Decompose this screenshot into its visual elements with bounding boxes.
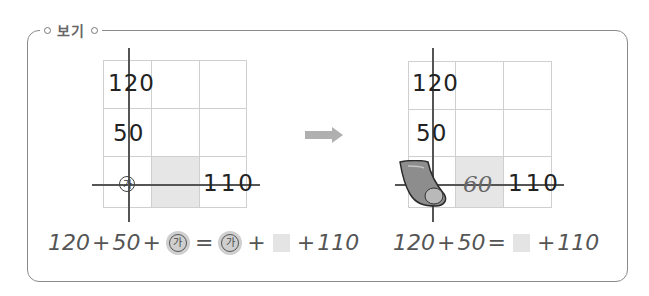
eq-term-50: 50	[457, 230, 485, 255]
right-equation: 120 + 50 = + 110	[393, 230, 599, 255]
left-cell-r1c2	[200, 109, 247, 157]
right-label-110: 110	[508, 172, 561, 195]
eq-equals: =	[487, 230, 505, 255]
eq-term-120: 120	[48, 230, 90, 255]
left-cell-r1c1	[152, 109, 200, 157]
left-equation: 120 + 50 + 가 = 가 + + 110	[48, 230, 359, 255]
left-label-110: 110	[203, 172, 256, 195]
eq-plus: +	[247, 230, 265, 255]
eq-plus: +	[142, 230, 160, 255]
ring-left-icon	[44, 27, 51, 34]
right-cell-r0c2	[504, 61, 552, 110]
title-text: 보기	[57, 20, 85, 40]
eq-circled-ga: 가	[218, 231, 242, 255]
right-cell-r1c1	[456, 110, 504, 157]
left-cell-r2c1-shaded	[152, 157, 200, 208]
left-cell-r0c1	[152, 60, 200, 109]
eq-equals: =	[195, 230, 213, 255]
ring-right-icon	[91, 27, 98, 34]
eq-plus: +	[297, 230, 315, 255]
eq-circled-ga: 가	[166, 231, 190, 255]
eraser-icon	[398, 160, 450, 208]
left-label-50: 50	[113, 122, 144, 145]
eq-term-110: 110	[317, 230, 359, 255]
example-title: 보기	[40, 20, 102, 40]
right-label-120: 120	[412, 72, 459, 95]
eq-blank-box	[273, 234, 290, 252]
left-label-120: 120	[108, 72, 155, 95]
right-label-50: 50	[416, 122, 447, 145]
eq-term-50: 50	[112, 230, 140, 255]
right-handwritten-60: 60	[463, 171, 492, 197]
left-circled-ga: 가	[119, 176, 135, 192]
eq-blank-box	[513, 234, 530, 252]
eq-term-110: 110	[557, 230, 599, 255]
eq-term-120: 120	[393, 230, 435, 255]
eq-plus: +	[92, 230, 110, 255]
right-cell-r1c2	[504, 110, 552, 157]
eq-plus: +	[437, 230, 455, 255]
left-cell-r0c2	[200, 60, 247, 109]
right-cell-r0c1	[456, 61, 504, 110]
right-arrow-icon	[305, 127, 345, 143]
eq-plus: +	[537, 230, 555, 255]
